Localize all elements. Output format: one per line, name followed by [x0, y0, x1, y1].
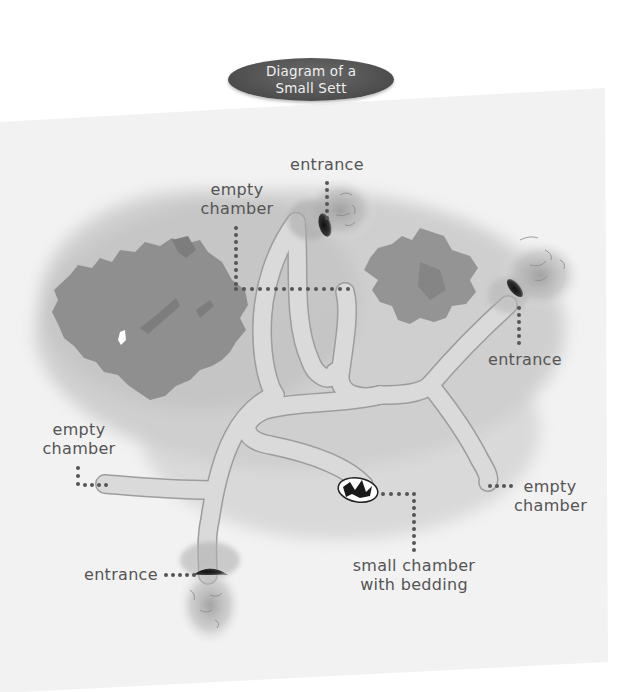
label-entrance-bottom: entrance	[84, 565, 158, 584]
label-empty-chamber-left: empty chamber	[40, 420, 118, 458]
sett-diagram: Diagram of a Small Sett entrance empty c…	[0, 0, 641, 692]
diagram-artwork	[0, 0, 641, 692]
title-bubble: Diagram of a Small Sett	[228, 58, 394, 101]
label-line: small chamber	[350, 556, 478, 575]
entrance-bottom-mound	[178, 542, 242, 645]
label-line: chamber	[198, 199, 276, 218]
label-line: chamber	[40, 439, 118, 458]
label-line: empty	[198, 180, 276, 199]
label-entrance-top: entrance	[290, 155, 364, 174]
title-line-1: Diagram of a	[266, 63, 356, 80]
label-empty-chamber-right: empty chamber	[514, 477, 586, 515]
label-bedding-chamber: small chamber with bedding	[350, 556, 478, 594]
title-line-2: Small Sett	[275, 80, 346, 97]
label-line: empty	[40, 420, 118, 439]
label-empty-chamber-top: empty chamber	[198, 180, 276, 218]
label-line: chamber	[514, 496, 586, 515]
label-line: with bedding	[350, 575, 478, 594]
label-line: empty	[514, 477, 586, 496]
label-entrance-right: entrance	[488, 350, 562, 369]
